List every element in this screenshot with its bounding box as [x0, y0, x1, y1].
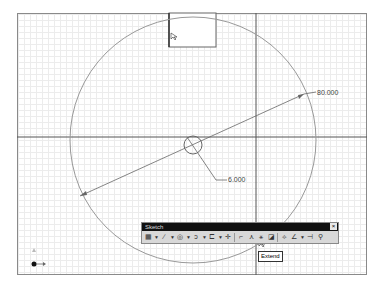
rectangle-icon[interactable]: ⊏: [208, 232, 216, 242]
project-icon[interactable]: ⚲: [316, 232, 324, 242]
dropdown-arrow-icon[interactable]: ▼: [202, 234, 206, 240]
dropdown-arrow-icon[interactable]: ▼: [186, 234, 190, 240]
dimension-icon[interactable]: ⊣: [306, 232, 314, 242]
dimension-80[interactable]: 80.000: [317, 89, 338, 96]
tooltip: Extend: [258, 251, 283, 262]
toolbar-title-bar[interactable]: Sketch ×: [142, 223, 338, 231]
small-circle: [184, 136, 202, 154]
point-icon[interactable]: ✛: [224, 232, 232, 242]
grid-icon[interactable]: ▦: [144, 232, 152, 242]
offset-icon[interactable]: ⚹: [257, 232, 265, 242]
toolbar-title: Sketch: [145, 224, 163, 230]
trim-icon[interactable]: ⌐: [237, 232, 245, 242]
arc-icon[interactable]: ↄ: [192, 232, 200, 242]
circle-icon[interactable]: ◎: [176, 232, 184, 242]
dropdown-arrow-icon[interactable]: ▼: [218, 234, 222, 240]
extend-icon[interactable]: ⋏: [247, 232, 255, 242]
dropdown-arrow-icon[interactable]: ▼: [170, 234, 174, 240]
sketch-toolbar: Sketch × ▦▼ ∕▼ ◎▼ ↄ▼ ⊏▼ ✛ ⌐ ⋏ ⚹ ◪ ⟡ ∠▼ ⊣…: [141, 222, 339, 244]
dropdown-arrow-icon[interactable]: ▼: [300, 234, 304, 240]
separator: [277, 233, 278, 242]
dropdown-arrow-icon[interactable]: ▼: [154, 234, 158, 240]
origin-icon: [32, 262, 37, 267]
constraint-icon[interactable]: ∠: [290, 232, 298, 242]
toolbar-buttons: ▦▼ ∕▼ ◎▼ ↄ▼ ⊏▼ ✛ ⌐ ⋏ ⚹ ◪ ⟡ ∠▼ ⊣ ⚲: [142, 231, 338, 243]
close-icon[interactable]: ×: [330, 223, 337, 230]
fillet-icon[interactable]: ◪: [267, 232, 275, 242]
separator: [234, 233, 235, 242]
line-icon[interactable]: ∕: [160, 232, 168, 242]
dimension-6[interactable]: 6.000: [228, 176, 246, 183]
mirror-icon[interactable]: ⟡: [280, 232, 288, 242]
